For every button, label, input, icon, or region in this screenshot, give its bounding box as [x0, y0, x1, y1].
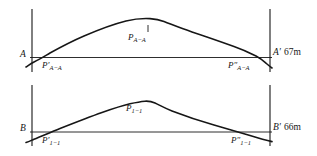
cross-section-svg: [0, 0, 317, 156]
bottom-left-foot-sub: 1−1: [49, 139, 60, 146]
bottom-right-endpoint-name: B′: [273, 122, 281, 132]
bottom-right-endpoint-value: 66m: [284, 122, 301, 132]
bottom-right-foot-label: P″1−1: [231, 136, 251, 146]
top-center-pressure-label: PA−A: [128, 33, 146, 43]
bottom-right-endpoint-label: B′66m: [273, 123, 301, 133]
top-center-pressure-sub: A−A: [134, 36, 146, 43]
cross-section-figure: A A′67m PA−A P′A−A P″A−A B B′66m P1−1 P′…: [0, 0, 317, 156]
bottom-left-endpoint-label: B: [20, 124, 26, 134]
top-right-foot-sub: A−A: [237, 64, 249, 71]
top-right-endpoint-value: 67m: [284, 47, 301, 57]
top-right-foot-base: P″: [228, 60, 237, 70]
top-right-endpoint-name: A′: [273, 47, 281, 57]
top-right-endpoint-label: A′67m: [273, 48, 301, 58]
top-left-foot-sub: A−A: [49, 64, 61, 71]
top-left-endpoint-label: A: [20, 50, 26, 60]
bottom-left-foot-label: P′1−1: [42, 136, 60, 146]
bottom-center-pressure-label: P1−1: [126, 104, 142, 114]
bottom-center-pressure-sub: 1−1: [132, 107, 143, 114]
top-right-foot-label: P″A−A: [228, 61, 250, 71]
top-left-foot-label: P′A−A: [42, 61, 62, 71]
bottom-right-foot-sub: 1−1: [240, 139, 251, 146]
bottom-right-foot-base: P″: [231, 135, 240, 145]
